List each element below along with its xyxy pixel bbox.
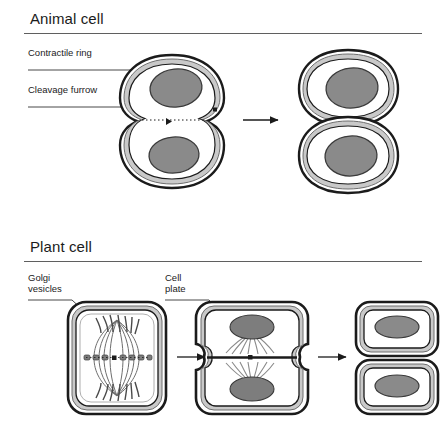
separated-plant-daughter-cells (356, 302, 438, 414)
separated-animal-daughter-cells (299, 50, 398, 193)
animal-leader-lines (28, 70, 216, 121)
chromatin-bottom (96, 382, 139, 401)
animal-daughter-cell-bottom (299, 117, 398, 193)
contractile-ring-marker (213, 108, 217, 112)
label-golgi-vesicles: Golgi vesicles (28, 272, 62, 294)
spindle-fibers (94, 320, 139, 396)
nucleus (324, 134, 379, 178)
plant-daughter-cell-top (356, 302, 438, 356)
label-cleavage-furrow: Cleavage furrow (28, 84, 97, 95)
animal-daughter-cell-top (299, 50, 398, 126)
nucleus (375, 375, 419, 397)
nucleus (230, 315, 274, 339)
golgi-vesicles (84, 355, 152, 360)
dividing-animal-cell (120, 55, 224, 188)
plant-cell-golgi-vesicles (68, 302, 166, 414)
nucleus (148, 66, 204, 109)
nucleus (324, 66, 379, 110)
nucleus (375, 316, 419, 338)
plant-cell-section-title: Plant cell (30, 238, 92, 255)
plant-leader-lines (28, 300, 262, 352)
plant-section-divider (24, 261, 422, 262)
animal-cell-section-title: Animal cell (30, 10, 104, 27)
nucleus (148, 135, 200, 174)
chromatin-top (96, 315, 139, 334)
cytokinesis-figure: Animal cell Contractile ring Cleavage fu… (0, 0, 446, 441)
label-cell-plate: Cell plate (165, 272, 186, 294)
animal-section-divider (24, 33, 422, 34)
diagram-artwork (0, 0, 446, 441)
nucleus (230, 377, 274, 401)
plant-cell-forming-cell-plate (196, 302, 308, 414)
plant-daughter-cell-bottom (356, 360, 438, 414)
spindle-fibers-top (226, 332, 274, 354)
cleavage-furrow-marker (166, 118, 172, 125)
label-contractile-ring: Contractile ring (28, 47, 92, 58)
spindle-fibers-bottom (226, 362, 274, 384)
